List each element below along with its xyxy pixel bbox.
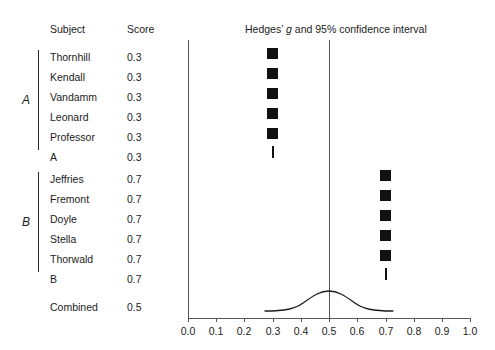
combined-density-curve: [0, 0, 495, 350]
forest-plot-figure: Subject Score Hedges’ g and 95% confiden…: [0, 0, 495, 350]
